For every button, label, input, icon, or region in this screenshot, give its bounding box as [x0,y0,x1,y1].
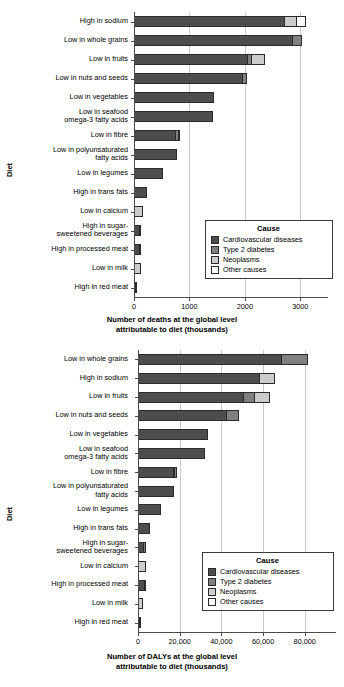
category-label: Low in fibre [12,131,128,139]
bar-segment-cardiovascular [138,504,161,515]
category-label: Low in calcium [12,562,128,570]
legend-title: Cause [211,224,326,233]
category-label: Low in nuts and seeds [12,74,128,82]
legend-swatch-neoplasms [211,256,219,264]
x-axis-tick [134,298,135,301]
bar-segment-cardiovascular [134,73,243,84]
bar [138,580,146,591]
bar-segment-cardiovascular [138,410,227,421]
category-label-line: Low in whole grains [12,355,128,363]
legend-label: Other causes [220,597,263,606]
category-label-line: Low in nuts and seeds [12,74,128,82]
category-label: Low in legumes [12,169,128,177]
category-label-line: Low in vegetables [12,430,128,438]
bar-segment-cardiovascular [138,392,244,403]
legend-row: Other causes [208,597,327,606]
bar-segment-neoplasms [284,16,297,27]
bar-segment-diabetes [139,225,141,236]
bar [134,73,247,84]
x-axis-tick [221,633,222,636]
bar-segment-cardiovascular [134,187,147,198]
x-axis-title-line: attributable to diet (thousands) [0,325,344,335]
legend-swatch-cardiovascular [211,236,219,244]
category-label: Low in seafoodomega-3 fatty acids [12,108,128,125]
legend-swatch-diabetes [208,578,216,586]
category-label: High in sodium [12,374,128,382]
category-label-line: High in sodium [12,17,128,25]
x-axis-tick [138,633,139,636]
bar-segment-cardiovascular [134,149,177,160]
category-label-line: omega-3 fatty acids [12,453,128,461]
y-axis-line [134,12,135,297]
x-axis-tick-label: 20,000 [169,637,191,646]
bar [134,54,265,65]
category-label-line: fatty acids [12,491,128,499]
bar-segment-cardiovascular [138,486,174,497]
category-label-line: High in red meat [12,618,128,626]
category-label-line: Low in legumes [12,169,128,177]
category-label: Low in seafoodomega-3 fatty acids [12,445,128,462]
category-label-line: sweetened beverages [12,230,128,238]
category-label-line: Low in nuts and seeds [12,411,128,419]
x-axis-title-line: Number of DALYs at the global level [0,652,344,662]
category-label: Low in whole grains [12,355,128,363]
category-label: Low in vegetables [12,93,128,101]
bar-segment-other [296,16,306,27]
legend-swatch-neoplasms [208,588,216,596]
bar-segment-diabetes [174,467,178,478]
x-axis-tick [300,298,301,301]
bar-segment-cardiovascular [138,448,205,459]
category-label-line: Low in milk [12,599,128,607]
bar [138,542,146,553]
bar [134,206,143,217]
category-label: Low in milk [12,264,128,272]
deaths-plot-wrap: Diet High in sodiumLow in whole grainsLo… [0,0,344,340]
bar [138,561,146,572]
legend-label: Cardiovascular diseases [223,235,303,244]
category-label: High in sugar-sweetened beverages [12,539,128,556]
legend-row: Type 2 diabetes [208,577,327,586]
bar-segment-neoplasms [138,561,146,572]
legend-swatch-other [208,598,216,606]
bar [134,130,180,141]
legend-label: Cardiovascular diseases [220,567,300,576]
x-axis-tick-label: 80,000 [294,637,316,646]
category-label-line: Low in fibre [12,468,128,476]
bar [138,467,177,478]
x-axis-tick [189,298,190,301]
category-label: Low in legumes [12,505,128,513]
bar [138,373,275,384]
bar-segment-diabetes [143,542,146,553]
category-label-line: fatty acids [12,154,128,162]
bar [134,187,147,198]
bar-segment-cardiovascular [134,168,163,179]
bar [138,354,308,365]
bar-segment-cardiovascular [138,354,282,365]
category-label-line: Low in fruits [12,55,128,63]
legend-label: Neoplasms [223,255,260,264]
legend-row: Other causes [211,265,326,274]
legend-label: Neoplasms [220,587,257,596]
category-label-line: High in trans fats [12,524,128,532]
legend-swatch-diabetes [211,246,219,254]
legend-label: Other causes [223,265,266,274]
legend-swatch-other [211,266,219,274]
legend-title: Cause [208,556,327,565]
bar-segment-cardiovascular [134,35,293,46]
category-label-line: sweetened beverages [12,547,128,555]
category-label: Low in calcium [12,207,128,215]
category-label: Low in nuts and seeds [12,411,128,419]
dalys-chart-figure: Diet Low in whole grainsHigh in sodiumLo… [0,340,344,687]
bar-segment-cardiovascular [134,111,213,122]
category-label-line: Low in calcium [12,207,128,215]
legend-entries: Cardiovascular diseasesType 2 diabetesNe… [208,567,327,606]
category-label-line: Low in fibre [12,131,128,139]
bar-segment-neoplasms [259,373,275,384]
x-axis-tick-label: 0 [136,637,140,646]
bar-segment-cardiovascular [138,373,260,384]
category-label-line: High in processed meat [12,245,128,253]
category-label: Low in milk [12,599,128,607]
bar-segment-diabetes [226,410,240,421]
category-label-line: Low in calcium [12,562,128,570]
x-axis-tick [245,298,246,301]
